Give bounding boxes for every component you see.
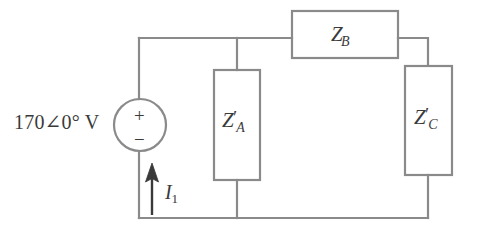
impedance-label-za: Z′A	[222, 108, 245, 135]
wire-zb-to-zc	[398, 38, 428, 66]
impedance-symbol-zc: Z	[414, 105, 426, 129]
current-label-i1: I1	[165, 182, 178, 205]
current-arrow-i1	[146, 163, 159, 215]
source-value-label: 170∠0° V	[14, 112, 99, 132]
impedance-subscript-zb: B	[341, 34, 350, 49]
circuit-diagram-figure: 170∠0° V + − Z′A ZB Z′C I1	[0, 0, 477, 235]
current-subscript: 1	[171, 191, 178, 206]
impedance-label-zb: ZB	[331, 22, 350, 49]
source-minus-sign: −	[134, 130, 145, 149]
source-plus-sign: +	[134, 106, 145, 125]
impedance-subscript-za: A	[236, 120, 245, 135]
impedance-symbol-za: Z	[222, 108, 234, 132]
impedance-subscript-zc: C	[428, 117, 437, 132]
impedance-label-zc: Z′C	[414, 105, 438, 132]
